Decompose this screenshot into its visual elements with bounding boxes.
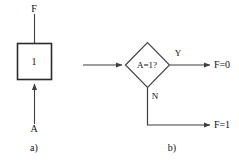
panel-b-yes-label: Y bbox=[175, 48, 182, 58]
panel-b-caption: b) bbox=[168, 143, 176, 153]
panel-a-output-label: F bbox=[31, 4, 37, 14]
panel-a-caption: a) bbox=[30, 143, 38, 153]
panel-a-block-label: 1 bbox=[32, 57, 37, 67]
panel-b-graphics bbox=[83, 43, 210, 126]
figure-drawing bbox=[0, 0, 239, 160]
panel-b-yes-output-label: F=0 bbox=[214, 60, 230, 70]
panel-b-no-label: N bbox=[152, 91, 159, 101]
figure-root: F 1 A a) A=1? Y N F=0 F=1 b) bbox=[0, 0, 239, 160]
panel-b-no-output-label: F=1 bbox=[214, 120, 230, 130]
panel-b-decision-label: A=1? bbox=[137, 60, 157, 70]
panel-a-graphics bbox=[18, 14, 52, 124]
panel-a-input-label: A bbox=[30, 124, 37, 134]
